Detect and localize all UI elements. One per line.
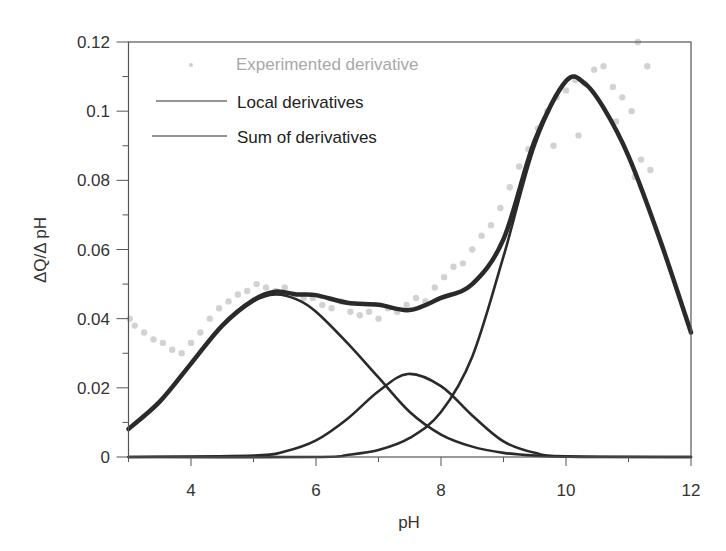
axis-ticks: 468101200.020.040.060.080.10.12	[77, 33, 701, 500]
data-point	[375, 315, 381, 321]
data-point	[357, 312, 363, 318]
chart-svg: 468101200.020.040.060.080.10.12 pH ΔQ/Δ …	[0, 0, 726, 551]
legend: Experimented derivative Local derivative…	[152, 55, 418, 147]
plot-frame	[129, 42, 692, 457]
x-tick-label: 4	[186, 481, 195, 500]
data-point	[403, 302, 409, 308]
sum-curve	[129, 76, 692, 429]
data-point	[610, 84, 616, 90]
legend-label-local: Local derivatives	[237, 93, 364, 112]
data-point	[460, 260, 466, 266]
y-tick-label: 0.08	[77, 171, 110, 190]
data-point	[216, 305, 222, 311]
data-point	[225, 298, 231, 304]
data-point	[328, 305, 334, 311]
data-point	[469, 246, 475, 252]
y-tick-label: 0.04	[77, 310, 110, 329]
data-point	[347, 309, 353, 315]
data-point	[516, 163, 522, 169]
data-point	[263, 284, 269, 290]
x-tick-label: 12	[682, 481, 701, 500]
data-point	[253, 281, 259, 287]
x-tick-label: 8	[436, 481, 445, 500]
data-point	[488, 222, 494, 228]
data-point	[188, 340, 194, 346]
data-point	[644, 63, 650, 69]
data-point	[638, 156, 644, 162]
y-tick-label: 0.06	[77, 241, 110, 260]
data-point	[150, 336, 156, 342]
data-point	[550, 143, 556, 149]
legend-marker-experimented	[189, 63, 193, 67]
legend-label-sum: Sum of derivatives	[237, 128, 377, 147]
data-point	[647, 167, 653, 173]
data-point	[319, 302, 325, 308]
data-point	[563, 87, 569, 93]
data-point	[141, 329, 147, 335]
y-tick-label: 0.12	[77, 33, 110, 52]
data-point	[160, 340, 166, 346]
data-point	[600, 63, 606, 69]
x-tick-label: 6	[311, 481, 320, 500]
data-point	[591, 66, 597, 72]
data-point	[441, 274, 447, 280]
y-tick-label: 0.1	[86, 102, 110, 121]
data-point	[207, 315, 213, 321]
data-point	[197, 329, 203, 335]
legend-label-experimented: Experimented derivative	[236, 55, 418, 74]
data-point	[366, 309, 372, 315]
data-point	[497, 205, 503, 211]
local-derivative-curve	[129, 77, 692, 458]
data-point	[450, 264, 456, 270]
data-point	[432, 284, 438, 290]
y-axis-title: ΔQ/Δ pH	[31, 217, 50, 283]
data-point	[478, 232, 484, 238]
data-point	[619, 94, 625, 100]
data-point	[178, 350, 184, 356]
y-tick-label: 0.02	[77, 379, 110, 398]
local-derivative-curve	[129, 374, 692, 457]
data-point	[235, 291, 241, 297]
data-point	[244, 288, 250, 294]
data-point	[628, 108, 634, 114]
data-point	[169, 347, 175, 353]
data-point	[507, 184, 513, 190]
data-point	[132, 322, 138, 328]
y-axis-title-text: ΔQ/Δ pH	[31, 217, 50, 283]
y-tick-label: 0	[101, 448, 110, 467]
derivative-curves	[129, 76, 692, 457]
x-axis-title: pH	[398, 513, 420, 532]
data-point	[413, 295, 419, 301]
x-tick-label: 10	[557, 481, 576, 500]
data-point	[575, 132, 581, 138]
